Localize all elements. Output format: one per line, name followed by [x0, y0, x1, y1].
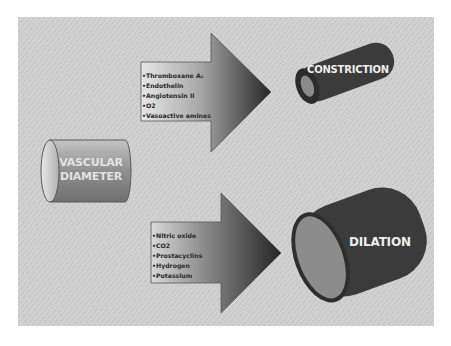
list-item: O2 — [142, 101, 211, 111]
list-item: Angiotensin II — [142, 91, 211, 101]
vascular-diameter-label: VASCULAR DIAMETER — [56, 156, 126, 184]
list-item: CO2 — [152, 241, 202, 251]
vasodilator-list: Nitric oxide CO2 Prostacyclins Hydrogen … — [152, 231, 202, 281]
vascular-diameter-line1: VASCULAR — [56, 156, 126, 170]
list-item: Thromboxane A₂ — [142, 71, 211, 81]
list-item: Vasoactive amines — [142, 111, 211, 121]
list-item: Prostacyclins — [152, 251, 202, 261]
dilation-label: DILATION — [349, 235, 411, 249]
vascular-diameter-line2: DIAMETER — [56, 170, 126, 184]
vasoconstrictor-list: Thromboxane A₂ Endothelin Angiotensin II… — [142, 71, 211, 121]
constriction-label: CONSTRICTION — [307, 64, 389, 75]
list-item: Hydrogen — [152, 261, 202, 271]
list-item: Potassium — [152, 271, 202, 281]
list-item: Endothelin — [142, 81, 211, 91]
list-item: Nitric oxide — [152, 231, 202, 241]
